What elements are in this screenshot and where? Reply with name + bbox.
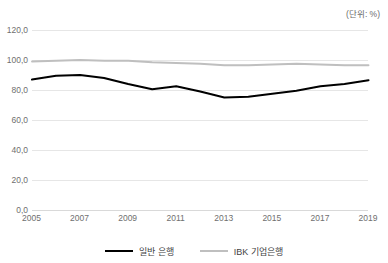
series-line (32, 75, 369, 98)
y-axis-labels: 0,020,040,060,080,0100,0120,0 (0, 30, 28, 210)
y-axis-tick-label: 20,0 (0, 175, 28, 185)
chart-legend: 일반 은행IBK 기업은행 (0, 241, 388, 261)
x-axis-tick-label: 2007 (70, 213, 89, 223)
x-axis-tick-label: 2005 (22, 213, 41, 223)
chart-title-clipped (6, 0, 306, 8)
y-axis-tick-label: 80,0 (0, 85, 28, 95)
plot-area (32, 30, 369, 210)
y-axis-tick-label: 120,0 (0, 25, 28, 35)
legend-label: 일반 은행 (139, 245, 174, 258)
x-axis-tick-label: 2009 (118, 213, 137, 223)
y-axis-tick-label: 60,0 (0, 115, 28, 125)
unit-label: (단위: %) (346, 7, 380, 19)
legend-line-icon (105, 250, 133, 252)
legend-label: IBK 기업은행 (234, 245, 283, 258)
x-axis-tick-label: 2015 (262, 213, 281, 223)
legend-item[interactable]: 일반 은행 (105, 245, 174, 258)
chart-container: (단위: %) 0,020,040,060,080,0100,0120,0 20… (0, 0, 388, 263)
series-line (32, 60, 369, 65)
series-lines (32, 30, 369, 210)
legend-line-icon (200, 250, 228, 252)
gridline (32, 210, 369, 211)
y-axis-tick-label: 100,0 (0, 55, 28, 65)
x-axis-labels: 20052007200920112013201520172019 (32, 213, 369, 229)
legend-item[interactable]: IBK 기업은행 (200, 245, 283, 258)
x-axis-tick-label: 2019 (359, 213, 378, 223)
x-axis-tick-label: 2017 (310, 213, 329, 223)
x-axis-tick-label: 2013 (214, 213, 233, 223)
x-axis-tick-label: 2011 (167, 213, 185, 223)
y-axis-tick-label: 40,0 (0, 145, 28, 155)
